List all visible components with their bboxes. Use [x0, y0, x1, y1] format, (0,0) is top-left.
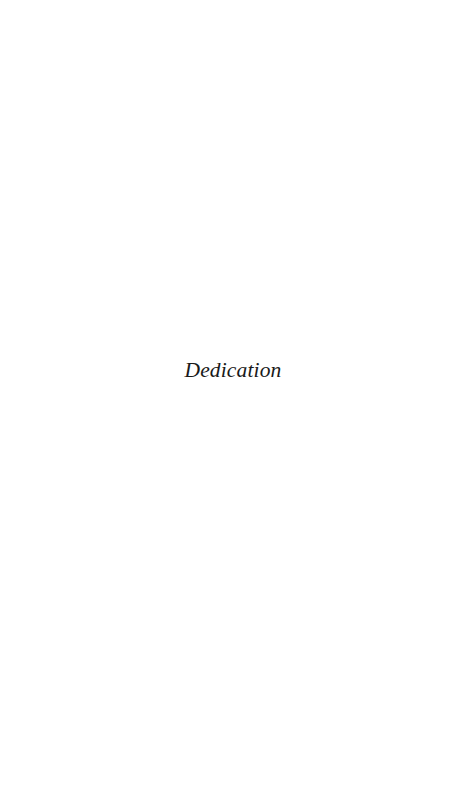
page-title: Dedication — [0, 358, 475, 383]
dedication-page: Dedication — [0, 0, 475, 808]
